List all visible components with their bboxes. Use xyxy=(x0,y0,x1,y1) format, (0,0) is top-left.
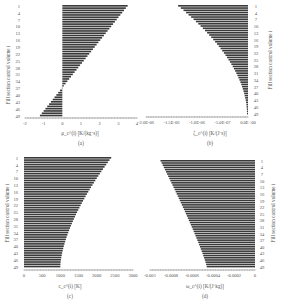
row-label-d: 31 xyxy=(260,225,265,230)
row-label-d: 34 xyxy=(260,232,265,237)
bar-d-1 xyxy=(161,160,256,162)
row-label-c: 10 xyxy=(13,176,18,181)
bar-d-2 xyxy=(162,162,255,164)
bar-a-47 xyxy=(44,110,63,112)
row-label-b: 1 xyxy=(255,4,258,9)
x-tick-label-d: -0.001 xyxy=(144,273,157,278)
row-label-c: 34 xyxy=(13,231,18,236)
row-label-b: 16 xyxy=(254,38,259,43)
y-axis-title-d: Fill section control volume i xyxy=(270,183,276,242)
row-label-c: 4 xyxy=(16,163,19,168)
row-label-b: 22 xyxy=(254,51,259,56)
caption-d: (d) xyxy=(202,293,208,300)
row-label-d: 49 xyxy=(260,265,265,270)
bar-d-32 xyxy=(193,228,255,230)
x-axis-c: 050010001500200025003000 xyxy=(23,269,138,278)
bar-a-48 xyxy=(42,112,63,114)
bar-c-25 xyxy=(24,211,77,213)
bar-d-3 xyxy=(163,164,255,166)
row-label-c: 1 xyxy=(16,156,19,161)
row-label-d: 43 xyxy=(260,251,265,256)
x-tick-label-c: 500 xyxy=(39,273,47,278)
x-tick-label-a: 2 xyxy=(99,121,102,126)
bar-d-17 xyxy=(178,195,255,197)
bar-b-19 xyxy=(219,45,248,47)
bar-d-37 xyxy=(197,239,255,241)
bar-a-34 xyxy=(62,80,67,82)
row-labels-c: 1471013161922252831343740434649 xyxy=(13,156,18,270)
bar-b-2 xyxy=(181,7,248,9)
bar-b-4 xyxy=(186,12,248,14)
row-label-a: 19 xyxy=(15,45,20,50)
bar-c-8 xyxy=(24,173,100,175)
bar-b-49 xyxy=(247,113,248,115)
row-label-c: 31 xyxy=(13,224,18,229)
x-tick-label-d: -0.0006 xyxy=(185,273,200,278)
bar-c-10 xyxy=(24,177,97,179)
row-label-d: 40 xyxy=(260,245,265,250)
bar-d-25 xyxy=(186,213,255,215)
bar-b-34 xyxy=(239,79,248,81)
bar-b-32 xyxy=(237,75,248,77)
x-axis-b: -2.0E-06-1.5E-06-1.0E-06-5.0E-070.0E+00 xyxy=(138,116,257,125)
row-label-b: 37 xyxy=(254,85,259,90)
chart-c: 050010001500200025003000 147101316192225… xyxy=(0,150,140,302)
bar-d-19 xyxy=(180,200,255,202)
row-label-a: 43 xyxy=(15,100,20,105)
x-tick-label-c: 2500 xyxy=(110,273,120,278)
bar-a-45 xyxy=(47,106,62,108)
bar-d-47 xyxy=(206,261,256,263)
chart-b: -2.0E-06-1.5E-06-1.0E-06-5.0E-070.0E+00 … xyxy=(140,0,281,150)
bar-d-23 xyxy=(184,208,255,210)
row-label-a: 49 xyxy=(15,114,20,119)
row-label-b: 7 xyxy=(255,17,258,22)
bar-a-39 xyxy=(58,92,62,94)
row-label-c: 40 xyxy=(13,244,18,249)
row-labels-b: 1471013161922252831343740434649 xyxy=(254,4,259,117)
x-tick-label-c: 1500 xyxy=(74,273,84,278)
x-tick-label-d: -0.0008 xyxy=(164,273,179,278)
bar-a-43 xyxy=(51,101,62,103)
bar-d-45 xyxy=(204,257,255,259)
bar-d-43 xyxy=(202,253,255,255)
bar-b-38 xyxy=(243,88,248,90)
bar-c-5 xyxy=(24,166,105,168)
bar-d-6 xyxy=(166,171,255,173)
row-label-b: 19 xyxy=(254,44,259,49)
bar-b-3 xyxy=(183,9,248,11)
bar-a-29 xyxy=(62,69,76,71)
bar-b-41 xyxy=(245,95,248,97)
bar-d-29 xyxy=(190,222,255,224)
x-tick-label-a: -1 xyxy=(42,121,47,126)
bar-d-10 xyxy=(170,180,255,182)
bar-c-29 xyxy=(24,220,73,222)
bars-b xyxy=(178,5,248,114)
bar-b-33 xyxy=(238,77,248,79)
bar-c-26 xyxy=(24,214,76,216)
row-label-a: 22 xyxy=(15,52,20,57)
chart-d: -0.001-0.0008-0.0006-0.0004-0.00020 1471… xyxy=(140,150,281,302)
bar-b-44 xyxy=(246,102,248,104)
bar-d-4 xyxy=(164,167,255,169)
bar-b-23 xyxy=(226,54,249,56)
bar-b-39 xyxy=(243,90,248,92)
bar-d-36 xyxy=(196,237,255,239)
bar-c-40 xyxy=(24,245,64,247)
bar-a-32 xyxy=(62,76,71,78)
bar-b-14 xyxy=(209,34,248,36)
bar-b-5 xyxy=(189,14,248,16)
bar-c-28 xyxy=(24,218,74,220)
row-label-c: 25 xyxy=(13,210,18,215)
bar-c-12 xyxy=(24,182,94,184)
bar-a-40 xyxy=(56,94,62,96)
x-tick-label-c: 2000 xyxy=(92,273,102,278)
bar-a-19 xyxy=(62,46,94,48)
bar-c-32 xyxy=(24,227,70,229)
x-tick-label-c: 3000 xyxy=(128,273,138,278)
bar-a-13 xyxy=(62,32,105,34)
row-label-d: 28 xyxy=(260,218,265,223)
bar-b-37 xyxy=(242,86,248,88)
x-tick-label-a: -2 xyxy=(23,121,28,126)
row-label-c: 43 xyxy=(13,251,18,256)
bar-c-11 xyxy=(24,180,95,182)
